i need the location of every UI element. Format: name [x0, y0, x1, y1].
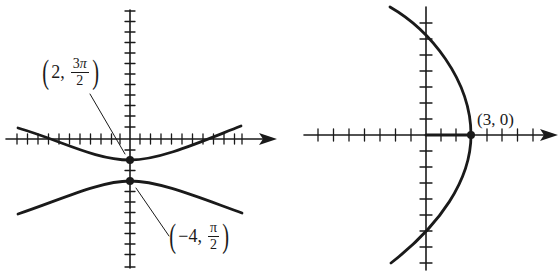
open-paren: ( [169, 219, 176, 253]
theta-fraction: π 2 [208, 221, 219, 252]
diagram-canvas [0, 0, 558, 275]
close-paren: ) [222, 219, 229, 253]
left-graph [6, 10, 277, 268]
r-value: −4, [178, 226, 202, 247]
r-value: 2, [51, 62, 65, 83]
left-upper-vertex-point [126, 156, 134, 164]
right-graph [304, 7, 558, 270]
right-vertex-label: (3, 0) [477, 110, 514, 130]
left-upper-leader-line [90, 94, 125, 154]
left-upper-point-label: ( 2, 3π 2 ) [40, 55, 101, 89]
right-vertex-point [467, 131, 475, 139]
left-lower-leader-line [136, 188, 169, 236]
open-paren: ( [42, 55, 49, 89]
close-paren: ) [92, 55, 99, 89]
theta-fraction: 3π 2 [71, 57, 89, 88]
left-lower-vertex-point [126, 177, 134, 185]
left-lower-point-label: ( −4, π 2 ) [167, 219, 231, 253]
